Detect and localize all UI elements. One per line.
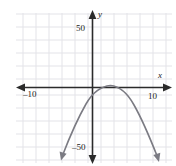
graph-svg: y x –10 10 50 –50 xyxy=(0,0,176,166)
coordinate-graph: y x –10 10 50 –50 xyxy=(0,0,176,166)
x-axis-label: x xyxy=(157,70,162,80)
y-tick-label-neg-fifty: –50 xyxy=(71,142,86,152)
y-axis-label: y xyxy=(97,9,102,19)
x-tick-label-pos-ten: 10 xyxy=(148,91,158,101)
y-tick-label-fifty: 50 xyxy=(76,23,86,33)
x-tick-label-neg-ten: –10 xyxy=(22,89,37,99)
